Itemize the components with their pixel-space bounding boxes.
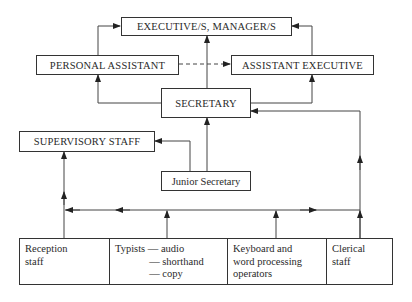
node-assistant-executive: ASSISTANT EXECUTIVE	[231, 55, 374, 75]
cell-typists: Typists — audio — shorthand — copy	[110, 239, 228, 284]
cell-reception-staff: Reception staff	[20, 239, 110, 284]
node-label: Junior Secretary	[172, 176, 241, 187]
node-executive-manager: EXECUTIVE/S, MANAGER/S	[121, 17, 292, 36]
node-label: ASSISTANT EXECUTIVE	[242, 60, 363, 71]
node-label: SUPERVISORY STAFF	[34, 136, 141, 147]
node-label: SECRETARY	[175, 98, 237, 109]
edge-pa-to-executive	[98, 26, 120, 55]
edge-ae-to-executive	[292, 26, 312, 55]
node-supervisory-staff: SUPERVISORY STAFF	[19, 131, 155, 152]
edge-secretary-to-ae	[250, 75, 312, 103]
node-label: EXECUTIVE/S, MANAGER/S	[137, 21, 276, 32]
node-junior-secretary: Junior Secretary	[161, 171, 251, 191]
node-personal-assistant: PERSONAL ASSISTANT	[36, 55, 179, 75]
node-label: PERSONAL ASSISTANT	[50, 60, 165, 71]
node-secretary: SECRETARY	[161, 88, 251, 118]
edge-secretary-to-pa	[98, 75, 161, 103]
cell-clerical-staff: Clerical staff	[327, 239, 392, 284]
cell-keyboard-operators: Keyboard and word processing operators	[228, 239, 327, 284]
staff-row: Reception staff Typists — audio — shorth…	[19, 238, 393, 285]
edge-clerical-to-secretary	[251, 111, 360, 238]
edge-junior-to-supervisory	[155, 141, 190, 171]
